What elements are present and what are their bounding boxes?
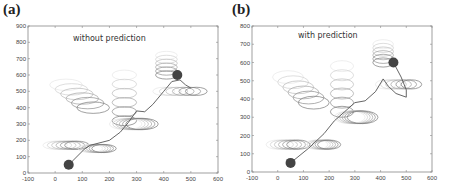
x-tick-label: 100 [298,175,309,181]
annotation-label: with prediction [298,31,358,40]
obstacle-ellipse [159,87,181,95]
obstacle-ellipse [77,102,110,113]
obstacle-ellipse [112,88,136,98]
x-tick-label: 300 [132,176,143,182]
obstacle-ellipse [113,118,146,129]
obstacle-ellipse [273,71,304,84]
y-tick-label: 400 [240,96,251,102]
y-tick-label: 600 [240,60,251,66]
y-tick-label: 800 [240,23,251,29]
obstacle-ellipse [179,87,201,95]
y-tick-label: 100 [16,154,27,160]
obstacle-ellipse [288,86,319,99]
y-tick-label: 400 [16,105,27,111]
y-tick-label: 900 [16,23,27,29]
plot-b: -100010020030040050060001002003004005006… [240,23,438,181]
obstacle-ellipse [185,87,207,95]
y-tick-label: 100 [240,151,251,157]
x-tick-label: 600 [427,175,438,181]
obstacle-ellipse [342,111,373,124]
goal-point [172,70,182,80]
obstacle-ellipse [298,96,329,109]
x-tick-label: 0 [276,175,280,181]
obstacle-ellipse [50,79,83,90]
obstacle-ellipse [293,91,324,104]
obstacle-ellipse [172,87,194,95]
obstacle-ellipse [112,98,136,108]
x-tick-label: 200 [324,175,335,181]
y-tick-label: 800 [16,39,27,45]
plot-frame [28,26,218,173]
goal-point [388,58,398,68]
start-point [64,160,74,170]
start-point [286,158,296,168]
obstacle-ellipse [71,97,104,108]
obstacle-ellipse [278,76,309,89]
y-tick-label: 600 [16,72,27,78]
y-tick-label: 500 [16,88,27,94]
y-tick-label: 300 [240,114,251,120]
obstacle-ellipse [112,79,136,89]
x-tick-label: -100 [22,176,35,182]
x-tick-label: 500 [186,176,197,182]
obstacle-ellipse [112,70,136,80]
x-tick-label: 0 [53,176,57,182]
obstacle-ellipse [66,93,99,104]
y-tick-label: 200 [16,137,27,143]
obstacle-ellipse [116,118,149,129]
x-tick-label: -100 [246,175,259,181]
x-tick-label: 600 [213,176,224,182]
y-tick-label: 700 [16,56,27,62]
x-tick-label: 400 [376,175,387,181]
obstacle-ellipse [166,87,188,95]
y-tick-label: 700 [240,41,251,47]
x-tick-label: 200 [104,176,115,182]
obstacle-ellipse [373,40,394,49]
obstacle-ellipse [373,43,394,52]
y-tick-label: 500 [240,78,251,84]
obstacle-ellipse [283,81,314,94]
x-tick-label: 500 [401,175,412,181]
x-tick-label: 300 [350,175,361,181]
trajectory-figure: -100010020030040050060001002003004005006… [0,0,449,190]
y-tick-label: 300 [16,121,27,127]
plot-a: -100010020030040050060001002003004005006… [16,23,224,182]
y-tick-label: 200 [240,133,251,139]
x-tick-label: 100 [77,176,88,182]
obstacle-ellipse [373,51,394,60]
obstacle-ellipse [55,84,88,95]
obstacles [43,51,207,152]
obstacle-ellipse [112,107,136,117]
obstacle-ellipse [61,88,94,99]
obstacle-ellipse [373,47,394,56]
annotation-label: without prediction [73,34,146,43]
x-tick-label: 400 [159,176,170,182]
